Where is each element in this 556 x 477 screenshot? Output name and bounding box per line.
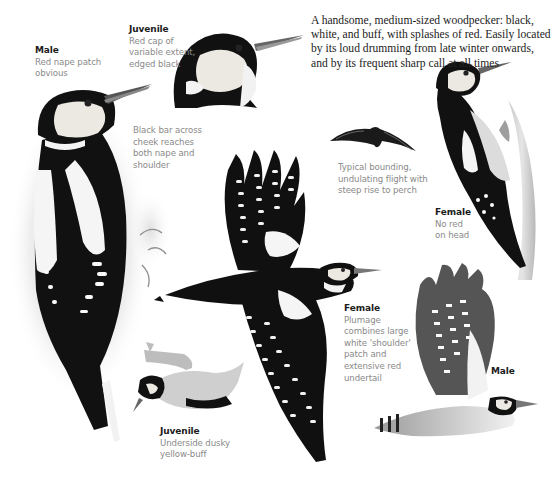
- caption-line: Red nape patch: [35, 57, 101, 69]
- caption-title: Male: [35, 45, 101, 57]
- caption-line: variable extent,: [129, 47, 195, 59]
- field-guide-page: A handsome, medium-sized woodpecker: bla…: [0, 0, 556, 477]
- caption-line: Underside dusky: [160, 438, 230, 450]
- caption-line: patch and: [344, 349, 411, 361]
- caption-line: on head: [435, 230, 471, 242]
- juvenile-hanging-illustration: [133, 342, 244, 412]
- caption-line: obvious: [35, 68, 101, 80]
- caption-title: Female: [435, 207, 471, 219]
- caption-line: extensive red: [344, 361, 411, 373]
- caption-line: Red cap of: [129, 36, 195, 48]
- caption-flight: Typical bounding, undulating flight with…: [338, 162, 428, 197]
- caption-cheek-bar: Black bar across cheek reaches both nape…: [133, 125, 202, 171]
- caption-male-perched: Male Red nape patch obvious: [35, 45, 101, 80]
- caption-line: Typical bounding,: [338, 162, 428, 174]
- intro-line: and by its frequent sharp call at all ti…: [311, 57, 556, 71]
- caption-title: Juvenile: [129, 24, 195, 36]
- caption-line: undertail: [344, 373, 411, 385]
- caption-title: Juvenile: [160, 426, 230, 438]
- caption-line: yellow-buff: [160, 449, 230, 461]
- intro-line: by its loud drumming from late winter on…: [311, 42, 556, 56]
- caption-juvenile-hanging: Juvenile Underside dusky yellow-buff: [160, 426, 230, 461]
- caption-line: steep rise to perch: [338, 185, 428, 197]
- caption-female-perched: Female No red on head: [435, 207, 471, 242]
- female-perched-illustration: [436, 62, 536, 280]
- caption-juvenile-head: Juvenile Red cap of variable extent, edg…: [129, 24, 195, 70]
- caption-line: combines large: [344, 326, 411, 338]
- intro-line: A handsome, medium-sized woodpecker: bla…: [311, 14, 556, 28]
- caption-line: No red: [435, 219, 471, 231]
- species-intro: A handsome, medium-sized woodpecker: bla…: [311, 14, 556, 71]
- caption-line: Black bar across: [133, 125, 202, 137]
- flight-silhouette-illustration: [330, 127, 416, 151]
- intro-line: white, and buff, with splashes of red. E…: [311, 28, 556, 42]
- caption-line: edged black: [129, 59, 195, 71]
- caption-line: white 'shoulder': [344, 338, 411, 350]
- caption-title: Female: [344, 303, 411, 315]
- caption-female-flying: Female Plumage combines large white 'sho…: [344, 303, 411, 384]
- caption-line: cheek reaches: [133, 137, 202, 149]
- caption-line: undulating flight with: [338, 174, 428, 186]
- caption-line: Plumage: [344, 315, 411, 327]
- caption-line: shoulder: [133, 160, 202, 172]
- caption-title: Male: [491, 366, 515, 378]
- caption-male-flying: Male: [491, 366, 515, 378]
- caption-line: both nape and: [133, 148, 202, 160]
